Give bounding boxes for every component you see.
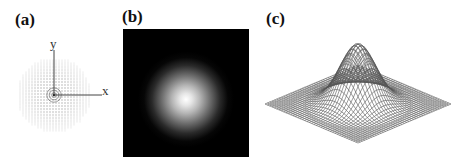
panel-c-wireframe-surface — [0, 0, 465, 165]
